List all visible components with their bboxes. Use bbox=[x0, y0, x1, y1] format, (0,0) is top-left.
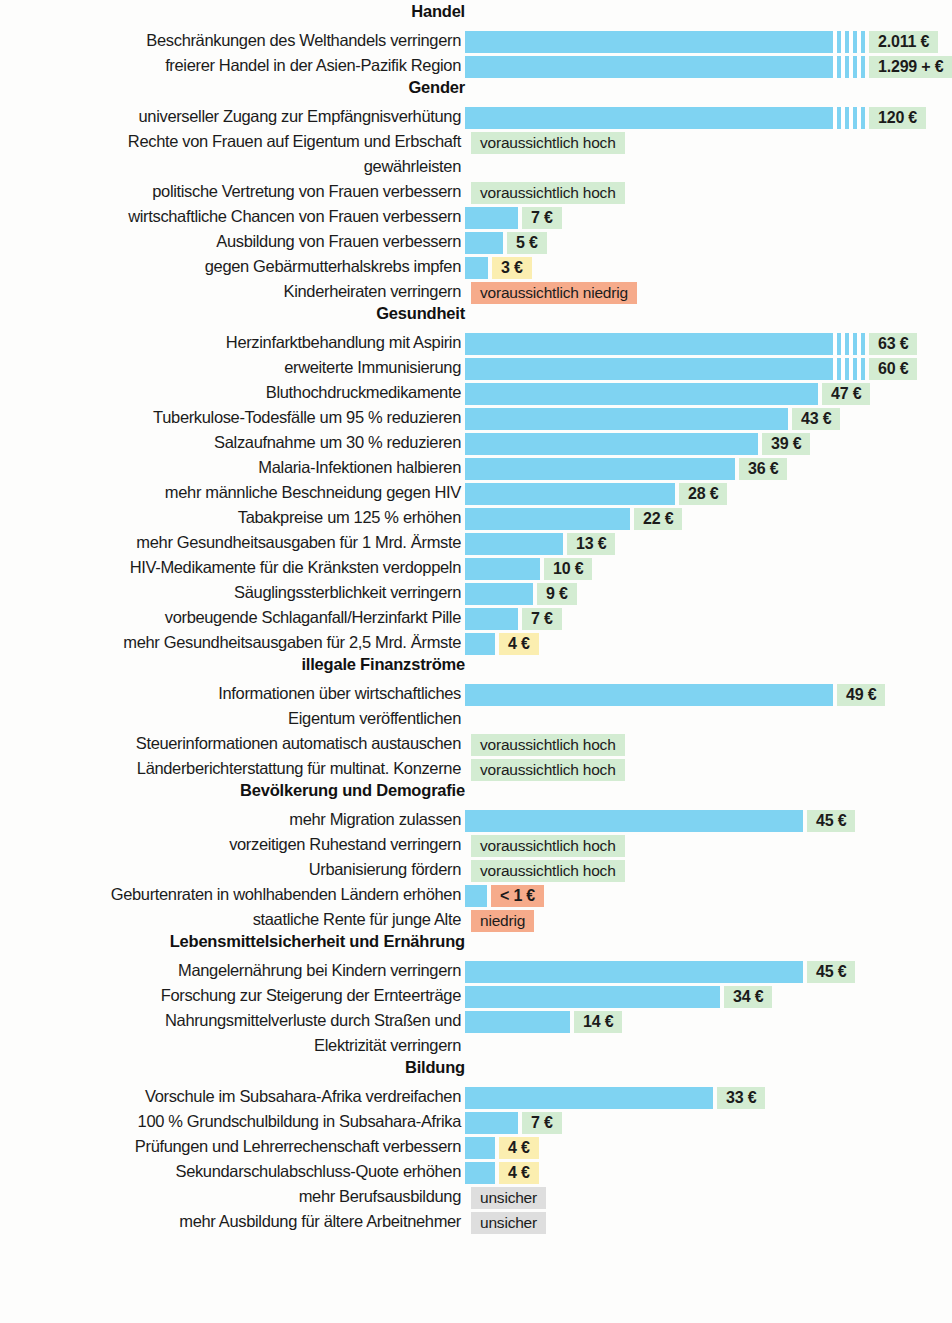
value-bar-truncated bbox=[465, 107, 865, 129]
row-label: vorzeitigen Ruhestand verringern bbox=[0, 832, 461, 857]
row-label: politische Vertretung von Frauen verbess… bbox=[0, 179, 461, 204]
qualitative-badge: voraussichtlich hoch bbox=[471, 734, 625, 756]
value-bar-truncated bbox=[465, 333, 865, 355]
chart-row: gegen Gebärmutterhalskrebs impfen3 € bbox=[0, 254, 939, 279]
value-bar bbox=[465, 533, 563, 555]
row-label: universeller Zugang zur Empfängnisverhüt… bbox=[0, 104, 461, 129]
chart-row: vorbeugende Schlaganfall/Herzinfarkt Pil… bbox=[0, 605, 939, 630]
value-bar bbox=[465, 633, 495, 655]
axis-break-stripes-icon bbox=[829, 107, 865, 129]
bar-fill bbox=[465, 107, 829, 129]
row-label: Herzinfarktbehandlung mit Aspirin bbox=[0, 330, 461, 355]
chart-row: Nahrungsmittelverluste durch Straßen und… bbox=[0, 1008, 939, 1058]
bar-fill bbox=[465, 358, 829, 380]
row-label: mehr Gesundheitsausgaben für 1 Mrd. Ärms… bbox=[0, 530, 461, 555]
qualitative-badge: voraussichtlich niedrig bbox=[471, 282, 637, 304]
axis-break-stripes-icon bbox=[829, 358, 865, 380]
value-bar bbox=[465, 810, 803, 832]
chart-row: Mangelernährung bei Kindern verringern45… bbox=[0, 958, 939, 983]
chart-row: wirtschaftliche Chancen von Frauen verbe… bbox=[0, 204, 939, 229]
chart-row: Tabakpreise um 125 % erhöhen22 € bbox=[0, 505, 939, 530]
chart-row: Vorschule im Subsahara-Afrika verdreifac… bbox=[0, 1084, 939, 1109]
qualitative-badge: voraussichtlich hoch bbox=[471, 835, 625, 857]
row-label: Ausbildung von Frauen verbessern bbox=[0, 229, 461, 254]
value-bar bbox=[465, 558, 540, 580]
row-label: mehr Migration zulassen bbox=[0, 807, 461, 832]
section-heading: Gender bbox=[0, 78, 465, 97]
row-label: Salzaufnahme um 30 % reduzieren bbox=[0, 430, 461, 455]
chart-row: Sekundarschulabschluss-Quote erhöhen4 € bbox=[0, 1159, 939, 1184]
chart-row: mehr Berufsausbildungunsicher bbox=[0, 1184, 939, 1209]
chart-row: mehr Migration zulassen45 € bbox=[0, 807, 939, 832]
chart-row: Informationen über wirtschaftliches Eige… bbox=[0, 681, 939, 731]
value-bar bbox=[465, 885, 487, 907]
value-badge: 45 € bbox=[807, 810, 855, 832]
value-badge: 4 € bbox=[499, 1137, 539, 1159]
value-bar bbox=[465, 232, 503, 254]
chart-row: Kinderheiraten verringernvoraussichtlich… bbox=[0, 279, 939, 304]
chart-row: politische Vertretung von Frauen verbess… bbox=[0, 179, 939, 204]
value-bar bbox=[465, 1087, 713, 1109]
value-badge: < 1 € bbox=[491, 885, 544, 907]
value-badge: 7 € bbox=[522, 207, 562, 229]
value-badge: 10 € bbox=[544, 558, 592, 580]
chart-row: Salzaufnahme um 30 % reduzieren39 € bbox=[0, 430, 939, 455]
chart-row: Steuerinformationen automatisch austausc… bbox=[0, 731, 939, 756]
section-heading: Gesundheit bbox=[0, 304, 465, 323]
value-badge: 28 € bbox=[679, 483, 727, 505]
value-bar bbox=[465, 1137, 495, 1159]
chart-row: mehr Gesundheitsausgaben für 2,5 Mrd. Är… bbox=[0, 630, 939, 655]
value-badge: 2.011 € bbox=[869, 31, 938, 53]
value-badge: 4 € bbox=[499, 1162, 539, 1184]
bar-fill bbox=[465, 31, 829, 53]
row-label: freierer Handel in der Asien-Pazifik Reg… bbox=[0, 53, 461, 78]
row-label: Steuerinformationen automatisch austausc… bbox=[0, 731, 461, 756]
value-badge: 1.299 + € bbox=[869, 56, 952, 78]
value-bar bbox=[465, 986, 720, 1008]
value-badge: 36 € bbox=[739, 458, 787, 480]
section-heading: Handel bbox=[0, 2, 465, 21]
value-badge: 63 € bbox=[869, 333, 917, 355]
value-bar bbox=[465, 408, 788, 430]
chart-row: Forschung zur Steigerung der Ernteerträg… bbox=[0, 983, 939, 1008]
chart-row: Bluthochdruckmedikamente47 € bbox=[0, 380, 939, 405]
row-label: Sekundarschulabschluss-Quote erhöhen bbox=[0, 1159, 461, 1184]
chart-row: Ausbildung von Frauen verbessern5 € bbox=[0, 229, 939, 254]
value-bar bbox=[465, 508, 630, 530]
row-label: mehr Berufsausbildung bbox=[0, 1184, 461, 1209]
value-badge: 9 € bbox=[537, 583, 577, 605]
value-badge: 13 € bbox=[567, 533, 615, 555]
chart-row: Tuberkulose-Todesfälle um 95 % reduziere… bbox=[0, 405, 939, 430]
row-label: Beschränkungen des Welthandels verringer… bbox=[0, 28, 461, 53]
value-bar bbox=[465, 684, 833, 706]
row-label: Nahrungsmittelverluste durch Straßen und… bbox=[0, 1008, 461, 1058]
row-label: Tabakpreise um 125 % erhöhen bbox=[0, 505, 461, 530]
chart-row: Rechte von Frauen auf Eigentum und Erbsc… bbox=[0, 129, 939, 179]
value-bar bbox=[465, 483, 675, 505]
chart-row: mehr Ausbildung für ältere Arbeitnehmeru… bbox=[0, 1209, 939, 1234]
value-badge: 47 € bbox=[822, 383, 870, 405]
value-badge: 4 € bbox=[499, 633, 539, 655]
section-heading: Bevölkerung und Demografie bbox=[0, 781, 465, 800]
qualitative-badge: unsicher bbox=[471, 1212, 546, 1234]
row-label: wirtschaftliche Chancen von Frauen verbe… bbox=[0, 204, 461, 229]
chart-row: universeller Zugang zur Empfängnisverhüt… bbox=[0, 104, 939, 129]
chart-row: Prüfungen und Lehrerrechenschaft verbess… bbox=[0, 1134, 939, 1159]
axis-break-stripes-icon bbox=[829, 31, 865, 53]
row-label: mehr Gesundheitsausgaben für 2,5 Mrd. Är… bbox=[0, 630, 461, 655]
row-label: Bluthochdruckmedikamente bbox=[0, 380, 461, 405]
row-label: Rechte von Frauen auf Eigentum und Erbsc… bbox=[0, 129, 461, 179]
value-badge: 120 € bbox=[869, 107, 926, 129]
value-badge: 3 € bbox=[492, 257, 532, 279]
value-bar bbox=[465, 583, 533, 605]
row-label: Säuglingssterblichkeit verringern bbox=[0, 580, 461, 605]
axis-break-stripes-icon bbox=[829, 333, 865, 355]
row-label: staatliche Rente für junge Alte bbox=[0, 907, 461, 932]
row-label: gegen Gebärmutterhalskrebs impfen bbox=[0, 254, 461, 279]
qualitative-badge: voraussichtlich hoch bbox=[471, 182, 625, 204]
row-label: Forschung zur Steigerung der Ernteerträg… bbox=[0, 983, 461, 1008]
value-badge: 45 € bbox=[807, 961, 855, 983]
chart-row: Urbanisierung fördernvoraussichtlich hoc… bbox=[0, 857, 939, 882]
value-bar-truncated bbox=[465, 56, 865, 78]
